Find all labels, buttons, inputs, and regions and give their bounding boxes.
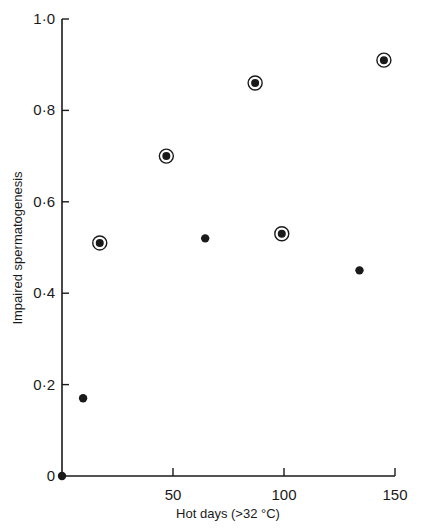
y-axis-title: Impaired spermatogenesis (10, 171, 25, 325)
data-points (58, 53, 391, 480)
circled-point-dot (278, 230, 286, 238)
circled-point-dot (162, 152, 170, 160)
x-tick-label: 100 (271, 486, 296, 503)
y-tick-label: 1·0 (33, 10, 55, 27)
filled-point (58, 472, 66, 480)
x-tick-label: 150 (382, 486, 407, 503)
circled-point-dot (380, 56, 388, 64)
x-tick-label: 50 (165, 486, 182, 503)
x-axis-title: Hot days (>32 °C) (176, 506, 280, 521)
circled-point-dot (96, 239, 104, 247)
filled-point (79, 394, 87, 402)
y-tick-label: 0·2 (33, 376, 55, 393)
y-tick-label: 0·8 (33, 101, 55, 118)
y-tick-label: 0·4 (33, 284, 55, 301)
scatter-chart: 00·20·40·60·81·050100150 Hot days (>32 °… (0, 0, 426, 532)
filled-point (355, 266, 363, 274)
circled-point-dot (251, 79, 259, 87)
y-tick-label: 0·6 (33, 193, 55, 210)
axes: 00·20·40·60·81·050100150 (33, 10, 407, 503)
y-tick-label: 0 (47, 467, 55, 484)
filled-point (201, 234, 209, 242)
